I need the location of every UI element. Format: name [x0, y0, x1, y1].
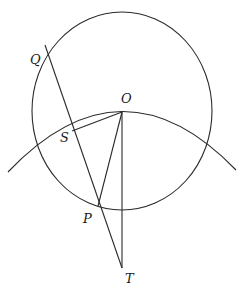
label-Q: Q: [30, 52, 41, 67]
label-P: P: [82, 211, 92, 226]
label-T: T: [125, 271, 135, 286]
geometry-diagram: O Q S P T: [0, 0, 243, 289]
label-S: S: [60, 130, 69, 145]
segment-OP: [98, 112, 122, 206]
label-O: O: [121, 91, 132, 106]
